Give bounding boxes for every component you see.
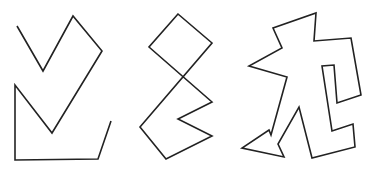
shapes-canvas — [0, 0, 375, 170]
diamond-zigzag-shape — [140, 14, 212, 159]
jagged-figure-shape — [242, 13, 361, 158]
zigzag-bracket-shape — [15, 16, 111, 160]
